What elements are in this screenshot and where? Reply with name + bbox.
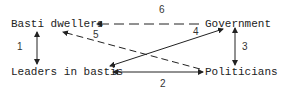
edge-label-1: 1 [17, 42, 23, 52]
edge-label-5: 5 [93, 30, 99, 40]
diagram-canvas: Basti dwellers Government Leaders in bas… [0, 0, 283, 91]
edge-label-2: 2 [160, 79, 166, 89]
edge-5 [63, 32, 200, 69]
node-basti-dwellers: Basti dwellers [11, 18, 103, 30]
node-government: Government [205, 18, 271, 30]
edge-label-3: 3 [242, 42, 248, 52]
node-leaders-in-bastis: Leaders in bastis [11, 66, 123, 78]
node-politicians: Politicians [205, 66, 278, 78]
edge-label-4: 4 [193, 27, 199, 37]
edge-label-6: 6 [159, 5, 165, 15]
